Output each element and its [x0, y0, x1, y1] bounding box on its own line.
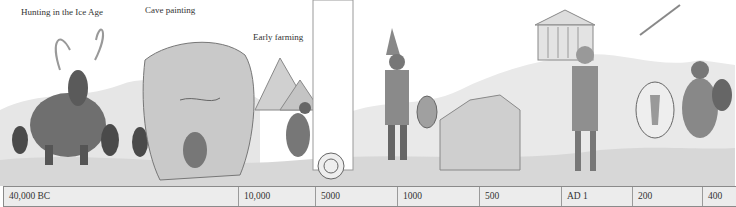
history-illustration: Hunting in the Ice Age Cave painting Ear…: [0, 0, 735, 186]
timeline-label: 500: [480, 187, 562, 206]
timeline-label: 10,000: [239, 187, 316, 206]
timeline-label: 200: [633, 187, 703, 206]
timeline-label: AD 1: [562, 187, 633, 206]
timeline-bar: 40,000 BC 10,000 5000 1000 500 AD 1 200 …: [3, 186, 736, 207]
scroll-divider-icon: [313, 0, 353, 179]
timeline-label: 400: [703, 187, 736, 206]
timeline-label: 40,000 BC: [4, 187, 239, 206]
sketch-scene: [0, 0, 735, 186]
caption-cave-painting: Cave painting: [145, 5, 195, 15]
pyramids-icon: [255, 58, 320, 110]
caption-hunting: Hunting in the Ice Age: [21, 7, 103, 17]
timeline-label: 5000: [316, 187, 398, 206]
timeline-label: 1000: [398, 187, 480, 206]
cave-rock-icon: [143, 42, 254, 180]
caption-early-farming: Early farming: [253, 32, 303, 42]
